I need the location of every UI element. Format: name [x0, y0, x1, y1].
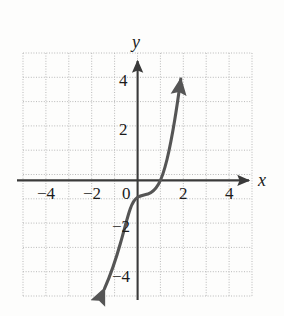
y-axis-label: y — [132, 33, 140, 51]
function-curve — [104, 79, 180, 289]
y-tick-label-2: 2 — [119, 121, 128, 138]
x-tick-label-2: 2 — [179, 185, 188, 202]
graph-figure: 4 2 −2 −4 −4 −2 0 2 4 y x — [0, 0, 284, 316]
y-tick-label-4: 4 — [119, 72, 128, 89]
x-tick-label-neg4: −4 — [37, 185, 55, 202]
x-tick-label-4: 4 — [225, 185, 234, 202]
coordinate-plane — [0, 0, 284, 316]
x-axis-label: x — [258, 171, 266, 189]
x-tick-label-neg2: −2 — [83, 185, 101, 202]
y-tick-label-neg2: −2 — [112, 218, 130, 235]
y-tick-label-neg4: −4 — [112, 268, 130, 285]
x-tick-label-0: 0 — [122, 185, 131, 202]
